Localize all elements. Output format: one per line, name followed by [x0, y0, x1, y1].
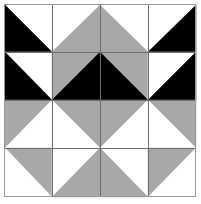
quilt-block-canvas [0, 0, 201, 204]
quilt-block-figure [0, 0, 201, 204]
